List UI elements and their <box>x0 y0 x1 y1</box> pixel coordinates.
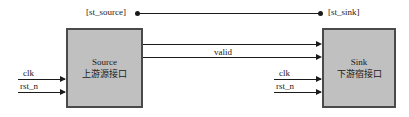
sink-rst-n-arrowhead <box>316 89 322 95</box>
source-block-name-en: Source <box>92 57 117 67</box>
sink-block: Sink 下游宿接口 <box>322 28 396 108</box>
sink-block-name-cn: 下游宿接口 <box>337 69 382 79</box>
st-source-label: [st_source] <box>86 7 126 17</box>
sink-clk-line <box>274 79 321 80</box>
source-rst-n-arrowhead <box>60 89 66 95</box>
sink-block-name-en: Sink <box>351 57 368 67</box>
source-clk-label: clk <box>23 68 34 78</box>
source-clk-arrowhead <box>60 76 66 82</box>
st-source-to-st-sink-line <box>138 13 319 14</box>
st-sink-endpoint-dot <box>318 11 323 16</box>
valid-bus-line-upper <box>143 44 317 45</box>
valid-bus-arrowhead-lower <box>316 54 322 60</box>
source-rst-n-line <box>18 92 65 93</box>
valid-bus-line-lower <box>143 57 317 58</box>
diagram-canvas: [st_source] [st_sink] Source 上游源接口 Sink … <box>0 0 409 117</box>
source-rst-n-label: rst_n <box>20 81 38 91</box>
st-sink-label: [st_sink] <box>328 7 360 17</box>
source-block: Source 上游源接口 <box>66 28 143 108</box>
valid-bus-arrowhead-upper <box>316 41 322 47</box>
source-clk-line <box>18 79 65 80</box>
sink-clk-arrowhead <box>316 76 322 82</box>
source-block-name-cn: 上游源接口 <box>82 69 127 79</box>
sink-rst-n-label: rst_n <box>276 81 294 91</box>
sink-clk-label: clk <box>279 68 290 78</box>
valid-signal-label: valid <box>214 47 232 57</box>
sink-rst-n-line <box>274 92 321 93</box>
